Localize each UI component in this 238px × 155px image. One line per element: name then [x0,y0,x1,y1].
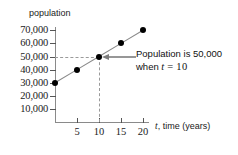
y-axis-title: population [29,8,71,18]
y-tick-label: 10,000 [4,104,48,114]
data-point [118,40,124,46]
y-tick-label: 50,000 [4,52,48,62]
y-tick-mark [50,109,56,110]
x-axis-line [55,122,149,123]
annotation-line-2: when t = 10 [136,60,222,73]
annotation-line-1: Population is 50,000 [136,47,222,60]
y-tick-label: 20,000 [4,91,48,101]
x-tick-mark [77,118,78,123]
data-point [52,80,58,86]
y-tick-label: 70,000 [4,25,48,35]
y-tick-label-text: 50,000 [6,52,48,62]
y-tick-label: 30,000 [4,78,48,88]
y-tick-label-text: 10,000 [6,104,48,114]
y-tick-label: 40,000 [4,65,48,75]
y-tick-label-text: 40,000 [6,65,48,75]
y-tick-mark [50,43,56,44]
y-tick-label: 60,000 [4,38,48,48]
y-tick-label-text: 20,000 [6,91,48,101]
x-tick-mark [143,118,144,123]
annotation-line-2-prefix: when [136,61,161,72]
y-tick-label-text: 30,000 [6,78,48,88]
annotation-value: 10 [176,61,187,72]
y-tick-label-text: 60,000 [6,38,48,48]
annotation-line-1-text: Population is 50,000 [136,48,222,59]
x-tick-label: 20 [132,126,154,137]
horizontal-guide-line [55,57,99,58]
annotation-equals-sign: = [164,61,176,72]
data-point [74,67,80,73]
y-tick-mark [50,96,56,97]
x-axis-title: t, time (years) [155,121,210,131]
x-tick-label: 10 [88,126,110,137]
x-tick-mark [121,118,122,123]
x-tick-label: 15 [110,126,132,137]
population-vs-time-chart: population 10,00020,00030,00040,00050,00… [0,0,238,155]
annotation-label: Population is 50,000 when t = 10 [136,47,222,73]
data-point [140,27,146,33]
y-tick-mark [50,70,56,71]
y-tick-label-text: 70,000 [6,25,48,35]
vertical-guide-line [99,57,100,123]
x-axis-title-rest: , time (years) [158,121,211,131]
x-tick-label: 5 [66,126,88,137]
annotation-arrow-icon [102,53,136,61]
y-tick-mark [50,30,56,31]
